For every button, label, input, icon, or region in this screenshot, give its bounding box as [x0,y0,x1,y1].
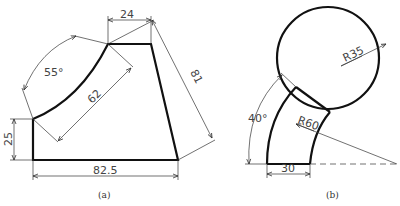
dim-band-width: 30 [281,162,295,175]
dim-bottom-width: 82.5 [93,164,118,177]
dim-circle-radius: R35 [341,44,366,65]
dim-angle-a: 55° [44,66,64,79]
outline-a [33,44,178,160]
dim-left-height: 25 [2,132,15,146]
dim-arc-radius: R60 [296,114,321,134]
dim-angle-b: 40° [248,112,268,125]
figure-b: R35 R60 40° 30 (b) [245,7,397,200]
technical-drawing: 24 81 55° 62 25 82.5 (a) R35 R60 40° [0,0,400,206]
caption-a: (a) [98,190,110,200]
dim-radius-62: 62 [85,87,104,106]
dim-slant: 81 [187,67,205,85]
dim-top-width: 24 [120,8,134,21]
figure-a: 24 81 55° 62 25 82.5 (a) [2,8,215,200]
caption-b: (b) [326,190,339,200]
